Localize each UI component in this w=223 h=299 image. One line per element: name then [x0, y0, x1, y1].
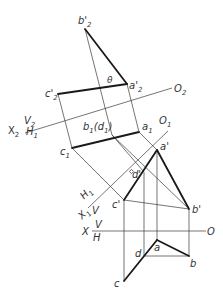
projector-b1	[112, 135, 189, 209]
v2-b2-a2	[85, 29, 127, 84]
label-a2p: a'2	[129, 80, 143, 94]
label-V: V	[95, 219, 103, 230]
label-b: b	[190, 258, 196, 269]
label-a: a	[154, 242, 160, 253]
label-d: d	[135, 248, 142, 259]
label-ap: a'	[160, 141, 169, 152]
label-a1: a1	[142, 121, 153, 135]
label-c1: c1	[60, 146, 70, 160]
label-b2p: b'2	[78, 15, 92, 29]
label-c: c	[114, 278, 120, 289]
front-cb-thin	[124, 200, 189, 209]
label-O: O	[207, 226, 215, 237]
label-H1b: H1	[78, 185, 96, 203]
axis-x1	[88, 131, 168, 208]
top-ab	[157, 240, 189, 256]
top-ca	[124, 240, 157, 281]
label-O2: O2	[174, 83, 187, 97]
label-b1d1: b1(d1)	[83, 121, 112, 135]
projection-diagram: b'2 a'2 c'2 θ O2 V2 X2 H1 b1(d1) a1 O1 c…	[0, 0, 223, 299]
label-dp: d'	[132, 169, 141, 180]
projector-d1	[112, 135, 144, 172]
label-X1: X1	[75, 205, 94, 224]
label-bp: b'	[192, 204, 201, 215]
v2-c2-a2	[58, 84, 127, 94]
label-cp: c'	[112, 199, 120, 210]
label-X: X	[81, 226, 90, 237]
label-X2: X2	[8, 125, 19, 139]
label-H1a: H1	[26, 126, 38, 140]
front-ab	[157, 150, 189, 209]
label-H: H	[93, 232, 101, 243]
projector-c2	[58, 94, 72, 148]
label-V1: V	[92, 205, 100, 216]
label-O1: O1	[159, 115, 171, 129]
label-theta: θ	[107, 75, 113, 85]
label-c2p: c'2	[45, 88, 58, 102]
